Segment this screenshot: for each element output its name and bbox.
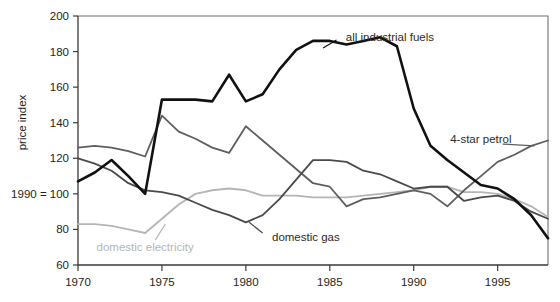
line-chart: 60801990 = 100120140160180200 1970197519… (0, 0, 560, 302)
x-tick-label: 1985 (317, 276, 343, 288)
x-tick-label: 1975 (149, 276, 175, 288)
x-tick-label: 1990 (401, 276, 427, 288)
series-label-all-industrial-fuels: all industrial fuels (346, 31, 434, 43)
y-tick-label: 140 (50, 117, 69, 129)
x-tick-label: 1995 (485, 276, 511, 288)
series-label-domestic-gas: domestic gas (272, 231, 340, 243)
series-label-domestic-electricity: domestic electricity (97, 241, 194, 253)
y-tick-label: 1990 = 100 (11, 188, 69, 200)
x-tick-label: 1970 (65, 276, 91, 288)
chart-canvas: 60801990 = 100120140160180200 1970197519… (0, 0, 560, 302)
y-tick-label: 180 (50, 46, 69, 58)
y-axis-title: price index (16, 94, 28, 150)
footer-clipped-text (0, 292, 560, 302)
y-tick-label: 120 (50, 152, 69, 164)
series-label-4-star-petrol: 4-star petrol (450, 133, 511, 145)
y-tick-label: 60 (56, 259, 69, 271)
y-tick-label: 80 (56, 223, 69, 235)
chart-background (0, 0, 560, 302)
y-tick-label: 200 (50, 10, 69, 22)
x-tick-label: 1980 (233, 276, 259, 288)
y-tick-label: 160 (50, 81, 69, 93)
